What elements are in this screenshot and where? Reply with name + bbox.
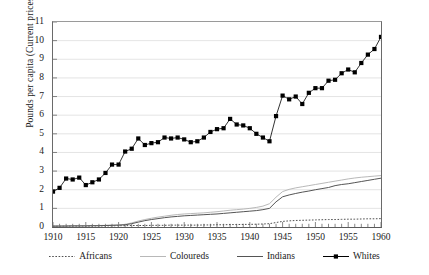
legend-label: Whites xyxy=(353,252,380,262)
legend-swatch-icon xyxy=(49,252,75,261)
data-point-marker xyxy=(261,135,265,139)
data-point-marker xyxy=(326,79,330,83)
legend-label: Coloureds xyxy=(170,252,209,262)
x-axis-tick-label: 1960 xyxy=(361,233,401,243)
data-point-marker xyxy=(294,94,298,98)
y-axis-tick-label: 2 xyxy=(4,185,44,195)
legend-swatch-icon xyxy=(140,252,166,261)
plot-area xyxy=(52,21,382,228)
data-point-marker xyxy=(156,140,160,144)
data-point-marker xyxy=(228,117,232,121)
data-point-marker xyxy=(71,177,75,181)
y-axis-tick-label: 3 xyxy=(4,166,44,176)
y-axis-tick-label: 5 xyxy=(4,129,44,139)
data-point-marker xyxy=(130,147,134,151)
data-point-marker xyxy=(208,130,212,134)
data-point-marker xyxy=(353,70,357,74)
data-point-marker xyxy=(340,71,344,75)
legend-item-whites: Whites xyxy=(323,252,380,262)
y-axis-tick-label: 10 xyxy=(4,36,44,46)
legend-item-africans: Africans xyxy=(49,252,112,262)
data-point-marker xyxy=(84,183,88,187)
data-point-marker xyxy=(77,176,81,180)
data-point-marker xyxy=(110,162,114,166)
y-axis-tick-label: 8 xyxy=(4,73,44,83)
data-point-marker xyxy=(274,114,278,118)
data-point-marker xyxy=(53,189,55,193)
legend-label: Indians xyxy=(267,252,295,262)
data-point-marker xyxy=(215,127,219,131)
data-point-marker xyxy=(346,67,350,71)
data-point-marker xyxy=(221,126,225,130)
y-axis-tick-label: 7 xyxy=(4,92,44,102)
data-point-marker xyxy=(162,135,166,139)
y-axis-tick-label: 11 xyxy=(4,17,44,27)
data-point-marker xyxy=(313,86,317,90)
data-point-marker xyxy=(267,139,271,143)
data-point-marker xyxy=(176,135,180,139)
data-point-marker xyxy=(241,123,245,127)
data-point-marker xyxy=(103,171,107,175)
data-point-marker xyxy=(281,94,285,98)
data-point-marker xyxy=(136,136,140,140)
data-point-marker xyxy=(366,53,370,57)
plot-svg xyxy=(53,22,381,227)
chart-legend: AfricansColouredsIndiansWhites xyxy=(0,252,429,262)
data-point-marker xyxy=(300,102,304,106)
legend-item-coloureds: Coloureds xyxy=(140,252,209,262)
y-axis-tick-label: 6 xyxy=(4,110,44,120)
data-point-marker xyxy=(379,35,381,39)
data-point-marker xyxy=(64,176,68,180)
data-point-marker xyxy=(97,177,101,181)
series-line-coloureds xyxy=(53,176,381,227)
data-point-marker xyxy=(57,186,61,190)
chart-container: Pounds per capita (Current prices) 01234… xyxy=(0,0,429,275)
data-point-marker xyxy=(169,136,173,140)
data-point-marker xyxy=(202,135,206,139)
data-point-marker xyxy=(235,122,239,126)
legend-label: Africans xyxy=(79,252,112,262)
data-point-marker xyxy=(123,149,127,153)
legend-swatch-icon xyxy=(237,252,263,261)
y-axis-tick-label: 1 xyxy=(4,203,44,213)
data-point-marker xyxy=(320,86,324,90)
data-point-marker xyxy=(254,132,258,136)
data-point-marker xyxy=(149,141,153,145)
data-point-marker xyxy=(248,126,252,130)
series-line-indians xyxy=(53,178,381,226)
data-point-marker xyxy=(182,137,186,141)
legend-swatch-icon xyxy=(323,252,349,261)
data-point-marker xyxy=(189,140,193,144)
y-axis-tick-label: 0 xyxy=(4,222,44,232)
series-line-whites xyxy=(53,37,381,192)
data-point-marker xyxy=(90,180,94,184)
data-point-marker xyxy=(117,162,121,166)
data-point-marker xyxy=(143,143,147,147)
data-point-marker xyxy=(307,91,311,95)
data-point-marker xyxy=(372,47,376,51)
data-point-marker xyxy=(333,78,337,82)
legend-item-indians: Indians xyxy=(237,252,295,262)
data-point-marker xyxy=(195,139,199,143)
y-axis-tick-label: 9 xyxy=(4,54,44,64)
y-axis-tick-label: 4 xyxy=(4,147,44,157)
data-point-marker xyxy=(359,61,363,65)
data-point-marker xyxy=(287,97,291,101)
